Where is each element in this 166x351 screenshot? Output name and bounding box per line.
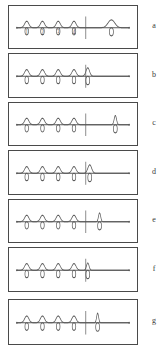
panel-label-c: c — [146, 119, 162, 127]
trace-plot-c — [9, 103, 137, 145]
lower-lobe-d-3 — [56, 173, 60, 180]
lower-lobe-c-5 — [113, 125, 117, 133]
trace-plot-e — [9, 200, 137, 242]
lower-lobe-e-3 — [56, 222, 60, 229]
lower-lobe-g-4 — [72, 323, 76, 331]
lower-lobe-f-4 — [72, 270, 76, 277]
lower-lobe-g-1 — [25, 323, 29, 331]
lower-lobe-b-5 — [86, 76, 90, 84]
upper-trace-c — [17, 115, 129, 124]
panel-label-f: f — [146, 265, 162, 273]
panel-label-b: b — [146, 71, 162, 79]
upper-trace-g — [17, 313, 129, 323]
lower-lobe-d-4 — [72, 173, 76, 180]
lower-lobe-e-1 — [25, 222, 29, 229]
lower-lobe-g-2 — [41, 323, 45, 331]
lower-lobe-b-4 — [72, 76, 76, 83]
lower-lobe-b-1 — [25, 76, 29, 83]
lower-lobe-c-2 — [41, 125, 45, 132]
trace-plot-d — [9, 151, 137, 194]
panel-a: 1234 — [8, 5, 138, 49]
upper-trace-f — [17, 263, 129, 270]
trace-plot-f — [9, 248, 137, 291]
lower-lobe-d-2 — [41, 173, 45, 180]
panel-label-e: e — [146, 216, 162, 224]
upper-trace-e — [17, 213, 129, 222]
panel-c — [8, 102, 138, 146]
lower-lobe-a-5 — [109, 28, 113, 36]
lower-lobe-d-5 — [88, 173, 92, 181]
lower-lobe-e-5 — [98, 222, 102, 230]
lower-lobe-g-5 — [96, 323, 100, 332]
lower-lobe-f-1 — [25, 270, 29, 277]
lower-lobe-f-3 — [56, 270, 60, 277]
lower-lobe-f-2 — [41, 270, 45, 277]
lower-lobe-c-4 — [72, 125, 76, 132]
tick-label-1: 1 — [25, 28, 28, 36]
lower-lobe-e-2 — [41, 222, 45, 229]
lower-lobe-c-1 — [25, 125, 29, 132]
upper-trace-d — [17, 165, 129, 173]
lower-lobe-g-3 — [56, 323, 60, 331]
lower-lobe-d-1 — [25, 173, 29, 180]
trace-plot-a: 1234 — [9, 6, 137, 48]
upper-trace-b — [17, 68, 129, 76]
trace-plot-g — [9, 300, 137, 344]
panel-label-g: g — [146, 317, 162, 325]
panel-f — [8, 247, 138, 292]
lower-lobe-e-4 — [72, 222, 76, 229]
panel-e — [8, 199, 138, 243]
panel-label-d: d — [146, 168, 162, 176]
figure-panel-stack: 1234abcdefg — [0, 0, 166, 351]
lower-lobe-b-2 — [41, 76, 45, 83]
panel-label-a: a — [146, 22, 162, 30]
lower-lobe-f-5 — [86, 270, 90, 278]
lower-lobe-c-3 — [56, 125, 60, 132]
trace-plot-b — [9, 54, 137, 97]
panel-g — [8, 299, 138, 345]
panel-b — [8, 53, 138, 98]
panel-d — [8, 150, 138, 195]
tick-label-2: 2 — [41, 28, 44, 36]
lower-lobe-b-3 — [56, 76, 60, 83]
